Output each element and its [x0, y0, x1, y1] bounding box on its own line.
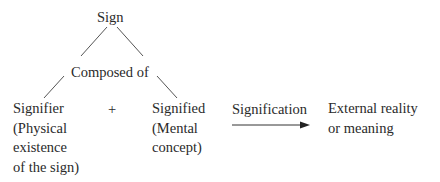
line-sign-to-composed-right [117, 27, 143, 56]
line-composed-to-signified [157, 76, 177, 98]
signifier-title: Signifier [13, 99, 79, 119]
line-sign-to-composed-left [81, 27, 107, 56]
external-line: External reality [328, 99, 418, 119]
node-composed-of: Composed of [71, 62, 149, 82]
signifier-line: of the sign) [13, 158, 79, 178]
signification-label: Signification [232, 99, 307, 119]
node-external-reality: External reality or meaning [328, 99, 418, 138]
node-signifier: Signifier (Physical existence of the sig… [13, 99, 79, 177]
arrow-head-icon [300, 122, 310, 129]
signifier-line: (Physical [13, 119, 79, 139]
node-signified: Signified (Mental concept) [152, 99, 205, 158]
line-composed-to-signifier [44, 76, 64, 98]
signifier-line: existence [13, 138, 79, 158]
signified-line: (Mental [152, 119, 205, 139]
plus-sign: + [108, 99, 116, 119]
signified-title: Signified [152, 99, 205, 119]
external-line: or meaning [328, 119, 418, 139]
node-sign: Sign [97, 7, 124, 27]
signified-line: concept) [152, 138, 205, 158]
